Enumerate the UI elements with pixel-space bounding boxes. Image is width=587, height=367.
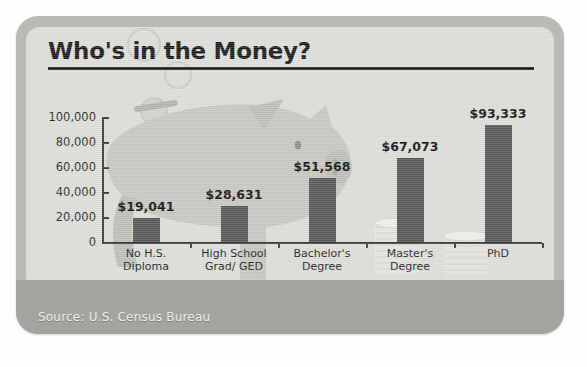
x-axis-category-label: Master'sDegree [387,248,433,274]
x-axis-tick-mark [542,243,544,248]
y-axis-tick-mark [102,192,109,194]
x-axis-tick-mark [454,243,456,248]
bar-value-label: $51,568 [294,159,351,174]
x-axis-tick-mark [190,243,192,248]
chart-panel: Who's in the Money? 020,00040,00060,0008… [26,27,554,290]
x-axis-tick-mark [278,243,280,248]
y-axis-tick-label: 40,000 [32,185,96,199]
bar [133,218,160,242]
bar-value-label: $28,631 [206,187,263,202]
y-axis-tick-label: 80,000 [32,135,96,149]
x-axis-category-label: Bachelor'sDegree [293,248,350,274]
bar [309,178,336,242]
x-axis-category-label: High SchoolGrad/ GED [201,248,266,274]
bar [485,125,512,242]
bar-value-label: $19,041 [118,199,175,214]
chart-image-root: Who's in the Money? 020,00040,00060,0008… [0,0,587,367]
y-axis-tick-mark [102,142,109,144]
y-axis-tick-mark [102,217,109,219]
y-axis-tick-label: 100,000 [32,110,96,124]
y-axis-tick-mark [102,167,109,169]
x-axis-line [102,242,542,244]
y-axis-tick-mark [102,117,109,119]
y-axis-tick-label: 60,000 [32,160,96,174]
bar [397,158,424,242]
source-credit: Source: U.S. Census Bureau [38,310,210,324]
y-axis-line [102,117,104,244]
bar-value-label: $67,073 [382,139,439,154]
y-axis-tick-label: 20,000 [32,210,96,224]
y-axis-tick-label: 0 [32,235,96,249]
x-axis-tick-mark [366,243,368,248]
plot-area: 020,00040,00060,00080,000100,000 $19,041… [26,27,554,290]
chart-card-frame: Who's in the Money? 020,00040,00060,0008… [16,16,564,334]
footer-band [16,280,564,334]
x-axis-category-label: PhD [487,248,509,261]
bar-value-label: $93,333 [470,106,527,121]
y-axis-labels: 020,00040,00060,00080,000100,000 [32,27,96,290]
x-axis-category-label: No H.S.Diploma [123,248,169,274]
bar [221,206,248,242]
